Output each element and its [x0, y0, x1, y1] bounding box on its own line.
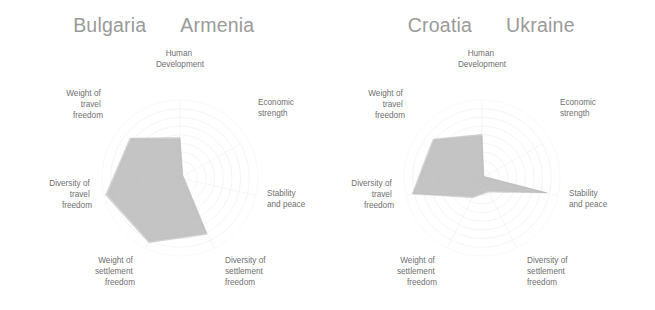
axis-label-line: strength	[258, 109, 288, 118]
axis-label-line: freedom	[225, 278, 255, 287]
radar-panels-container: Bulgaria Armenia	[0, 0, 655, 310]
axis-label-line: freedom	[62, 201, 92, 210]
axis-label-line: freedom	[105, 278, 135, 287]
axis-label-line: strength	[560, 109, 590, 118]
axis-label-diversity-of-settlement-freedom: Diversity of settlement freedom	[527, 256, 570, 287]
axis-label-line: Diversity of	[49, 179, 90, 188]
axis-label-line: settlement	[225, 267, 263, 276]
axis-label-diversity-of-settlement-freedom: Diversity of settlement freedom	[225, 256, 268, 287]
axis-label-diversity-of-travel-freedom: Diversity of travel freedom	[351, 179, 394, 210]
axis-label-line: Stability	[267, 189, 297, 198]
axis-label-weight-of-settlement-freedom: Weight of settlement freedom	[396, 256, 436, 287]
axis-label-economic-strength: Economic strength	[560, 98, 598, 118]
axis-label-line: Development	[457, 60, 506, 69]
panel-1-radar: Human Development Economic strength Stab…	[0, 0, 328, 310]
axis-label-human-development: Human Development	[156, 49, 205, 69]
axis-label-line: travel	[371, 190, 391, 199]
axis-label-line: freedom	[73, 111, 103, 120]
axis-label-line: settlement	[527, 267, 565, 276]
axis-label-line: travel	[382, 100, 402, 109]
radar-panel-1: Bulgaria Armenia	[0, 0, 328, 310]
axis-label-line: and peace	[267, 200, 306, 209]
axis-label-line: Weight of	[400, 256, 435, 265]
axis-label-line: Human	[467, 49, 494, 58]
axis-label-line: Diversity of	[527, 256, 568, 265]
axis-label-human-development: Human Development	[457, 49, 506, 69]
axis-label-line: settlement	[95, 267, 133, 276]
radar-chart-1: Human Development Economic strength Stab…	[0, 0, 328, 310]
panel-2-radar: Human Development Economic strength Stab…	[328, 0, 655, 310]
axis-label-line: freedom	[363, 201, 393, 210]
axis-label-line: Weight of	[98, 256, 133, 265]
radar-polygon-ukraine	[413, 136, 545, 196]
radar-panel-2: Croatia Ukraine	[328, 0, 655, 310]
axis-label-diversity-of-travel-freedom: Diversity of travel freedom	[49, 179, 92, 210]
axis-label-economic-strength: Economic strength	[258, 98, 296, 118]
axis-label-line: Diversity of	[225, 256, 266, 265]
axis-label-stability-and-peace: Stability and peace	[267, 189, 306, 209]
axis-label-line: Diversity of	[351, 179, 392, 188]
axis-label-line: Economic	[258, 98, 294, 107]
axis-label-stability-and-peace: Stability and peace	[569, 189, 608, 209]
radar-polygon-armenia	[108, 139, 207, 241]
axis-label-line: Weight of	[368, 89, 403, 98]
axis-label-line: Weight of	[66, 89, 101, 98]
axis-label-line: settlement	[396, 267, 434, 276]
axis-label-line: freedom	[374, 111, 404, 120]
axis-label-line: freedom	[406, 278, 436, 287]
axis-label-weight-of-settlement-freedom: Weight of settlement freedom	[95, 256, 135, 287]
axis-label-line: Economic	[560, 98, 596, 107]
axis-label-line: Stability	[569, 189, 599, 198]
axis-label-weight-of-travel-freedom: Weight of travel freedom	[368, 89, 405, 120]
axis-label-line: travel	[70, 190, 90, 199]
axis-label-line: Development	[156, 60, 205, 69]
axis-label-line: and peace	[569, 200, 608, 209]
axis-label-line: Human	[166, 49, 193, 58]
axis-label-weight-of-travel-freedom: Weight of travel freedom	[66, 89, 103, 120]
axis-label-line: travel	[81, 100, 101, 109]
radar-chart-2: Human Development Economic strength Stab…	[328, 0, 655, 310]
axis-label-line: freedom	[527, 278, 557, 287]
